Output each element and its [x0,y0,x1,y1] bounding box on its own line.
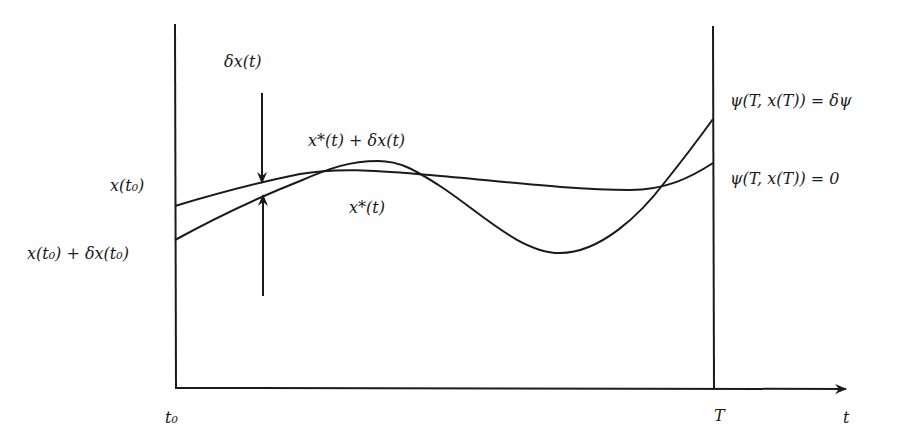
initial-time-label: t₀ [165,410,178,426]
initial-state-label: x(t₀) [110,178,144,194]
perturbed-trajectory-curve [175,119,713,253]
terminal-constraint-delta-label: ψ(T, x(T)) = δψ [730,93,851,109]
perturbed-initial-state-label: x(t₀) + δx(t₀) [27,246,129,262]
optimal-curve-label: x*(t) [349,200,385,216]
time-axis [175,388,846,389]
terminal-time-label: T [714,408,725,424]
perturbed-curve-label: x*(t) + δx(t) [308,133,405,149]
terminal-time-line [713,26,714,388]
terminal-constraint-zero-label: ψ(T, x(T)) = 0 [730,171,839,187]
time-axis-label: t [843,410,849,426]
diagram-canvas [0,0,903,444]
delta-x-label: δx(t) [224,54,262,70]
